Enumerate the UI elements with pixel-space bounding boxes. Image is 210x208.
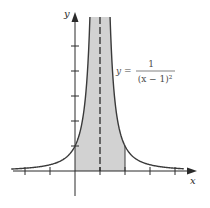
equation-lhs: y = — [115, 66, 132, 76]
equation-label: y = 1 (x − 1)² — [115, 59, 175, 84]
function-plot: x y y = 1 (x − 1)² — [0, 0, 210, 208]
x-axis-label: x — [190, 175, 196, 186]
x-axis-arrow-icon — [187, 168, 197, 175]
y-axis-arrow-icon — [72, 12, 79, 22]
equation-denominator: (x − 1)² — [138, 74, 173, 84]
y-axis-label: y — [63, 8, 70, 19]
equation-numerator: 1 — [148, 59, 154, 69]
